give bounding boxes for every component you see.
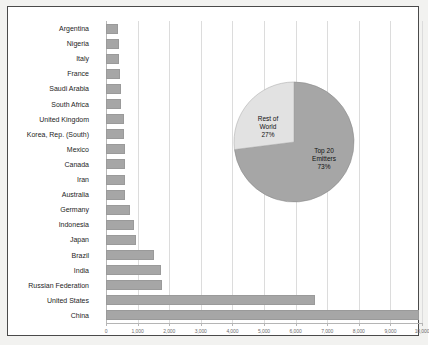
pie-label-rest-of-world: Rest of World 27% (245, 115, 291, 139)
x-axis-tick-label: 1,000 (132, 328, 144, 334)
pie-top-line2: Emitters (299, 155, 349, 163)
category-label: Japan (70, 233, 89, 246)
bar (106, 205, 130, 215)
category-label: Nigeria (67, 37, 89, 50)
category-label: Iran (77, 173, 89, 186)
bar (106, 129, 124, 139)
x-axis-tick-label: 9,000 (384, 328, 396, 334)
bar (106, 220, 134, 230)
category-label: Mexico (67, 143, 89, 156)
bar (106, 69, 120, 79)
bar-row: Russian Federation (8, 279, 422, 292)
bar-row: Nigeria (8, 37, 422, 50)
x-axis-tick (138, 323, 139, 326)
bar-row: Brazil (8, 249, 422, 262)
x-axis-tick (422, 323, 423, 326)
bar (106, 54, 119, 64)
x-axis-tick (169, 323, 170, 326)
bar (106, 235, 136, 245)
bar (106, 159, 125, 169)
bar (106, 295, 315, 305)
pie-top-line1: Top 20 (299, 147, 349, 155)
category-label: Brazil (71, 249, 89, 262)
x-axis-tick-label: 10,000 (415, 328, 429, 334)
x-axis-tick-label: 4,000 (226, 328, 238, 334)
gridline (390, 21, 391, 323)
bar-row: Germany (8, 203, 422, 216)
x-axis-tick-label: 3,000 (195, 328, 207, 334)
x-axis-tick-label: 7,000 (321, 328, 333, 334)
x-axis-tick (106, 323, 107, 326)
pie-rest-line1: Rest of (245, 115, 291, 123)
gridline (138, 21, 139, 323)
bar (106, 175, 125, 185)
bar-row: United Kingdom (8, 113, 422, 126)
category-label: South Africa (51, 98, 89, 111)
x-axis-tick-label: 5,000 (258, 328, 270, 334)
gridline (359, 21, 360, 323)
category-label: United States (47, 294, 89, 307)
bar (106, 84, 121, 94)
gridline (422, 21, 423, 323)
x-axis-tick (201, 323, 202, 326)
x-axis-tick-label: 2,000 (163, 328, 175, 334)
gridline (201, 21, 202, 323)
bar-row: India (8, 264, 422, 277)
category-label: India (74, 264, 89, 277)
bar (106, 99, 121, 109)
bar-row: South Africa (8, 98, 422, 111)
x-axis-tick (264, 323, 265, 326)
x-axis-tick (327, 323, 328, 326)
category-label: Argentina (59, 22, 89, 35)
bar (106, 280, 162, 290)
category-label: Australia (62, 188, 89, 201)
bar-row: Japan (8, 233, 422, 246)
bar-row: Saudi Arabia (8, 82, 422, 95)
bar (106, 190, 125, 200)
category-label: United Kingdom (39, 113, 89, 126)
category-label: Germany (60, 203, 89, 216)
category-label: Canada (64, 158, 89, 171)
bar-row: China (8, 309, 422, 322)
gridline (169, 21, 170, 323)
bar-row: Korea, Rep. (South) (8, 128, 422, 141)
gridline (106, 21, 107, 323)
category-label: Russian Federation (28, 279, 89, 292)
pie-chart: Rest of World 27% Top 20 Emitters 73% (233, 81, 355, 203)
category-label: Indonesia (59, 218, 89, 231)
bar-row: Mexico (8, 143, 422, 156)
x-axis-tick (359, 323, 360, 326)
category-label: France (67, 67, 89, 80)
pie-rest-percent: 27% (245, 131, 291, 139)
bar-row: Argentina (8, 22, 422, 35)
bar (106, 265, 161, 275)
x-axis-tick (232, 323, 233, 326)
x-axis-tick-label: 8,000 (353, 328, 365, 334)
bar-row: Australia (8, 188, 422, 201)
bar (106, 250, 154, 260)
bar-row: Indonesia (8, 218, 422, 231)
pie-svg (233, 81, 355, 203)
bar-row: France (8, 67, 422, 80)
bar-row: Canada (8, 158, 422, 171)
bar (106, 114, 124, 124)
bar-row: Iran (8, 173, 422, 186)
x-axis-tick (296, 323, 297, 326)
bar-row: Italy (8, 52, 422, 65)
pie-label-top-emitters: Top 20 Emitters 73% (299, 147, 349, 171)
x-axis-tick (390, 323, 391, 326)
category-label: China (71, 309, 89, 322)
category-label: Saudi Arabia (49, 82, 89, 95)
x-axis-tick-label: 6,000 (290, 328, 302, 334)
x-axis-tick-label: 0 (105, 328, 108, 334)
category-label: Italy (76, 52, 89, 65)
pie-top-percent: 73% (299, 163, 349, 171)
category-label: Korea, Rep. (South) (27, 128, 89, 141)
chart-frame: ArgentinaNigeriaItalyFranceSaudi ArabiaS… (7, 6, 419, 336)
bar (106, 310, 419, 320)
pie-rest-line2: World (245, 123, 291, 131)
bar (106, 144, 125, 154)
bar (106, 24, 118, 34)
bar (106, 39, 119, 49)
